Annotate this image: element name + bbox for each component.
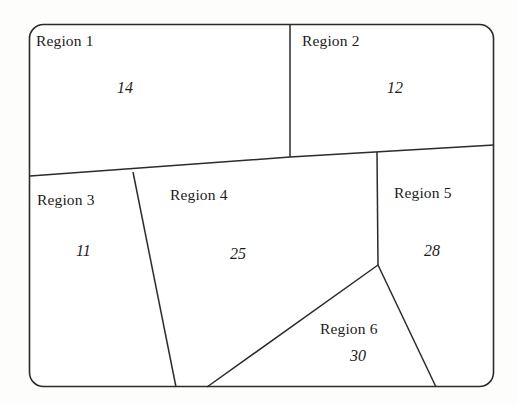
region-3-value: 11 [76,243,91,259]
partition-map-figure: Region 1 14 Region 2 12 Region 3 11 Regi… [0,0,517,405]
region4-region5-divider [377,152,378,265]
region-4-value: 25 [230,246,246,262]
region-1-label: Region 1 [36,33,94,49]
region-3-label: Region 3 [37,192,95,208]
region-6-label: Region 6 [320,321,378,337]
outer-border-rounded-rect [30,25,494,387]
region-5-label: Region 5 [394,185,452,201]
region-1-value: 14 [117,80,133,96]
region-4-label: Region 4 [170,187,228,203]
region-2-value: 12 [387,80,403,96]
region-5-value: 28 [424,243,440,259]
region-6-value: 30 [350,348,366,364]
region-2-label: Region 2 [302,33,360,49]
